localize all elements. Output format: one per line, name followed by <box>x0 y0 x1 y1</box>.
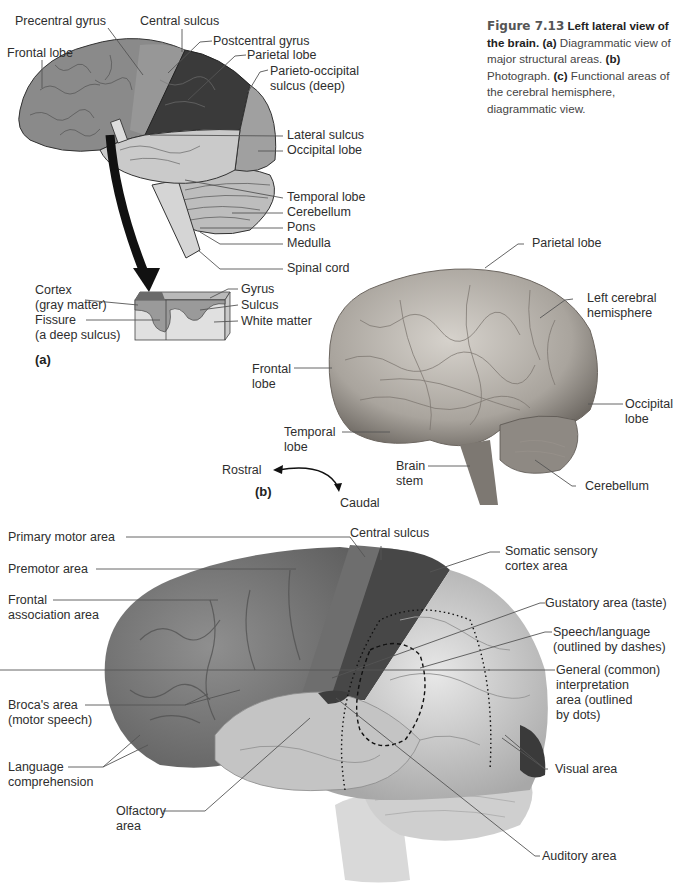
label-left-cerebral-hemisphere: Left cerebral hemisphere <box>587 291 656 321</box>
label-occipital-lobe-a: Occipital lobe <box>287 143 362 158</box>
label-gyrus: Gyrus <box>241 282 274 297</box>
label-fissure: Fissure (a deep sulcus) <box>35 313 120 343</box>
panel-c-brain <box>105 545 548 883</box>
label-caudal: Caudal <box>340 496 380 511</box>
figure-number: Figure 7.13 <box>487 19 564 33</box>
panel-b-photo <box>329 269 597 505</box>
label-central-sulcus-a: Central sulcus <box>140 14 219 29</box>
label-lateral-sulcus: Lateral sulcus <box>287 128 364 143</box>
label-brain-stem: Brain stem <box>396 459 425 489</box>
label-parietal-lobe-a: Parietal lobe <box>247 48 317 63</box>
caption-c-marker: (c) <box>553 69 567 82</box>
label-rostral: Rostral <box>222 463 262 478</box>
label-frontal-association: Frontal association area <box>8 593 99 623</box>
panel-b-marker: (b) <box>255 484 272 499</box>
label-brocas-area: Broca's area (motor speech) <box>8 698 92 728</box>
caption-a-marker: (a) <box>542 36 556 49</box>
label-occipital-lobe-b: Occipital lobe <box>625 397 673 427</box>
label-postcentral-gyrus: Postcentral gyrus <box>213 34 310 49</box>
caption-b-marker: (b) <box>606 52 621 65</box>
label-visual-area: Visual area <box>555 762 617 777</box>
label-parieto-occipital: Parieto-occipital sulcus (deep) <box>270 64 359 94</box>
label-frontal-lobe-b: Frontal lobe <box>252 362 291 392</box>
label-temporal-lobe-a: Temporal lobe <box>287 190 366 205</box>
label-language-comprehension: Language comprehension <box>8 760 93 790</box>
rostral-caudal-arrow <box>273 465 342 492</box>
label-gustatory-area: Gustatory area (taste) <box>545 596 667 611</box>
panel-a-brain <box>19 39 276 292</box>
label-cerebellum-b: Cerebellum <box>585 479 649 494</box>
label-somatic-sensory: Somatic sensory cortex area <box>505 544 597 574</box>
panel-a-marker: (a) <box>35 352 51 367</box>
label-speech-language: Speech/language (outlined by dashes) <box>553 625 666 655</box>
label-pons: Pons <box>287 220 316 235</box>
label-primary-motor-area: Primary motor area <box>8 530 115 545</box>
label-frontal-lobe-a: Frontal lobe <box>7 46 73 61</box>
figure-caption: Figure 7.13 Left lateral view of the bra… <box>487 18 683 117</box>
label-white-matter: White matter <box>241 314 312 329</box>
label-cerebellum-a: Cerebellum <box>287 205 351 220</box>
panel-a-inset <box>135 292 230 340</box>
label-precentral-gyrus: Precentral gyrus <box>15 14 106 29</box>
label-auditory-area: Auditory area <box>542 849 616 864</box>
label-parietal-lobe-b: Parietal lobe <box>532 236 602 251</box>
caption-b-text: Photograph. <box>487 69 550 82</box>
label-sulcus: Sulcus <box>241 298 279 313</box>
label-premotor-area: Premotor area <box>8 562 88 577</box>
label-temporal-lobe-b: Temporal lobe <box>284 425 335 455</box>
label-medulla: Medulla <box>287 236 331 251</box>
label-central-sulcus-c: Central sulcus <box>350 526 429 541</box>
label-cortex: Cortex (gray matter) <box>35 283 107 313</box>
label-general-interpretation: General (common) interpretation area (ou… <box>556 663 660 723</box>
label-olfactory-area: Olfactory area <box>116 804 166 834</box>
label-spinal-cord: Spinal cord <box>287 261 350 276</box>
